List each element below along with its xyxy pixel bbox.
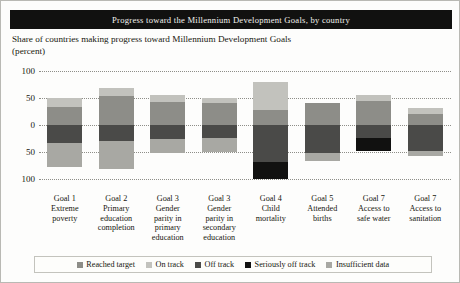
bar-group: [356, 71, 391, 183]
bar-segment: [253, 110, 288, 125]
x-category-label-line: Attended: [296, 204, 348, 214]
x-category-label-line: Goal 4: [245, 194, 297, 204]
legend-swatch-icon: [146, 262, 152, 268]
bar-segment: [305, 103, 340, 125]
x-category-label-line: parity in: [142, 214, 194, 224]
x-category-label-line: Goal 7: [348, 194, 400, 204]
y-tick-label: 50: [26, 147, 35, 157]
bar-group: [150, 71, 185, 183]
legend-swatch-icon: [195, 262, 201, 268]
chart-legend: Reached targetOn trackOff trackSeriously…: [34, 256, 432, 273]
bar-segment: [47, 107, 82, 125]
bar-segment: [150, 95, 185, 103]
x-category-label: Goal 1Extremepoverty: [39, 194, 91, 223]
x-category-label-line: Goal 2: [90, 194, 142, 204]
bar-segment: [202, 138, 237, 152]
page-title: Progress toward the Millennium Developme…: [112, 15, 350, 25]
bar-segment: [202, 125, 237, 138]
x-category-label-line: Goal 3: [193, 194, 245, 204]
x-category-label-line: parity in: [193, 214, 245, 224]
x-category-label-line: Gender: [193, 204, 245, 214]
legend-item: Insufficient data: [326, 260, 389, 269]
x-category-label-line: births: [296, 214, 348, 224]
y-tick-label: 50: [26, 93, 35, 103]
legend-label: Insufficient data: [336, 260, 389, 269]
bar-segment: [305, 125, 340, 153]
x-category-label-line: Goal 1: [39, 194, 91, 204]
bar-segment: [150, 102, 185, 125]
bar-segment: [356, 138, 391, 151]
bar-group: [408, 71, 443, 183]
chart-subtitle: Share of countries making progress towar…: [12, 34, 312, 57]
y-axis-tick-labels: 10050050100: [1, 71, 35, 186]
bar-segment: [408, 114, 443, 125]
x-category-label: Goal 7Access tosanitation: [399, 194, 451, 223]
bar-group: [202, 71, 237, 183]
bar-segment: [305, 153, 340, 161]
x-category-label-line: completion: [90, 223, 142, 233]
x-axis-category-labels: Goal 1ExtremepovertyGoal 2Primaryeducati…: [39, 194, 451, 249]
bar-segment: [202, 98, 237, 103]
bar-segment: [356, 95, 391, 101]
bar-segment: [408, 108, 443, 114]
figure-container: Progress toward the Millennium Developme…: [0, 0, 460, 283]
x-category-label-line: Goal 3: [142, 194, 194, 204]
x-category-label-line: primary: [142, 223, 194, 233]
x-category-label: Goal 4Childmortality: [245, 194, 297, 223]
legend-label: Off track: [204, 260, 234, 269]
x-category-label-line: education: [193, 233, 245, 243]
bar-segment: [356, 125, 391, 138]
x-category-label-line: secondary: [193, 223, 245, 233]
x-category-label-line: Primary: [90, 204, 142, 214]
y-tick-label: 0: [31, 120, 36, 130]
x-category-label-line: Extreme: [39, 204, 91, 214]
x-category-label: Goal 3Genderparity inprimaryeducation: [142, 194, 194, 243]
bar-group: [47, 71, 82, 183]
bar-segment: [99, 141, 134, 169]
bar-segment: [253, 162, 288, 179]
bar-segment: [408, 125, 443, 151]
legend-label: Reached target: [86, 260, 135, 269]
y-tick-label: 100: [22, 66, 36, 76]
bar-segment: [99, 125, 134, 141]
x-category-label-line: Child: [245, 204, 297, 214]
legend-item: On track: [146, 260, 184, 269]
y-tick-label: 100: [22, 174, 36, 184]
bar-group: [253, 71, 288, 183]
x-category-label: Goal 3Genderparity insecondaryeducation: [193, 194, 245, 243]
legend-swatch-icon: [245, 262, 251, 268]
bar-segment: [202, 103, 237, 125]
bar-segment: [408, 151, 443, 156]
legend-swatch-icon: [77, 262, 83, 268]
bar-segment: [253, 125, 288, 162]
x-category-label-line: Gender: [142, 204, 194, 214]
x-category-label: Goal 2Primaryeducationcompletion: [90, 194, 142, 233]
x-category-label-line: Goal 5: [296, 194, 348, 204]
legend-label: On track: [156, 260, 184, 269]
chart-title-banner: Progress toward the Millennium Developme…: [10, 10, 452, 29]
bar-segment: [99, 96, 134, 125]
bar-segment: [253, 82, 288, 110]
bar-segment: [47, 143, 82, 167]
legend-label: Seriously off track: [255, 260, 316, 269]
x-category-label-line: education: [142, 233, 194, 243]
bar-segment: [356, 101, 391, 125]
bar-segment: [150, 125, 185, 139]
x-category-label-line: sanitation: [399, 214, 451, 224]
legend-swatch-icon: [326, 262, 332, 268]
bar-segment: [150, 139, 185, 153]
bar-segment: [99, 88, 134, 96]
legend-item: Seriously off track: [245, 260, 315, 269]
bar-group: [305, 71, 340, 183]
x-category-label-line: Access to: [399, 204, 451, 214]
legend-item: Reached target: [77, 260, 135, 269]
bar-group: [99, 71, 134, 183]
x-category-label-line: Goal 7: [399, 194, 451, 204]
bar-segment: [47, 125, 82, 143]
x-category-label: Goal 7Access tosafe water: [348, 194, 400, 223]
x-category-label-line: Access to: [348, 204, 400, 214]
x-category-label-line: mortality: [245, 214, 297, 224]
x-category-label-line: education: [90, 214, 142, 224]
bar-segment: [47, 98, 82, 107]
x-category-label-line: poverty: [39, 214, 91, 224]
